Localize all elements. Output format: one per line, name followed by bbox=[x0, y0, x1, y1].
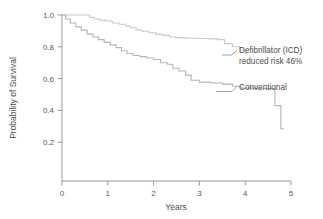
y-tick-marks bbox=[58, 15, 63, 142]
x-tick-label-4: 4 bbox=[243, 189, 248, 198]
y-tick-label-1-0: 1.0 bbox=[43, 11, 55, 20]
x-tick-label-0: 0 bbox=[60, 189, 65, 198]
x-tick-label-3: 3 bbox=[197, 189, 202, 198]
conventional-annotation-leader-line bbox=[216, 87, 237, 92]
icd-annotation-leader-line bbox=[222, 50, 237, 55]
icd-annotation-line1: Defibrillator (ICD) bbox=[239, 46, 303, 55]
x-tick-labels: 0 1 2 3 4 5 bbox=[60, 189, 294, 198]
x-tick-label-2: 2 bbox=[151, 189, 156, 198]
icd-annotation-line2: reduced risk 46% bbox=[239, 57, 302, 66]
x-tick-marks bbox=[62, 181, 291, 186]
y-axis-title: Probability of Survival bbox=[8, 57, 18, 139]
y-tick-label-0-4: 0.4 bbox=[43, 106, 55, 115]
axes-group bbox=[62, 14, 291, 181]
survival-chart-figure: 1.0 0.8 0.6 0.4 0.2 0 1 2 3 4 5 Years Pr… bbox=[0, 0, 323, 219]
x-tick-label-5: 5 bbox=[289, 189, 294, 198]
x-tick-label-1: 1 bbox=[106, 189, 111, 198]
y-tick-label-0-8: 0.8 bbox=[43, 43, 55, 52]
survival-curve-conventional bbox=[62, 15, 284, 129]
y-tick-label-0-6: 0.6 bbox=[43, 75, 55, 84]
chart-canvas: 1.0 0.8 0.6 0.4 0.2 0 1 2 3 4 5 Years Pr… bbox=[0, 0, 323, 219]
x-axis-title: Years bbox=[165, 202, 186, 212]
conventional-annotation: Conventional bbox=[239, 83, 287, 92]
y-tick-labels: 1.0 0.8 0.6 0.4 0.2 bbox=[43, 11, 55, 147]
y-tick-label-0-2: 0.2 bbox=[43, 138, 55, 147]
